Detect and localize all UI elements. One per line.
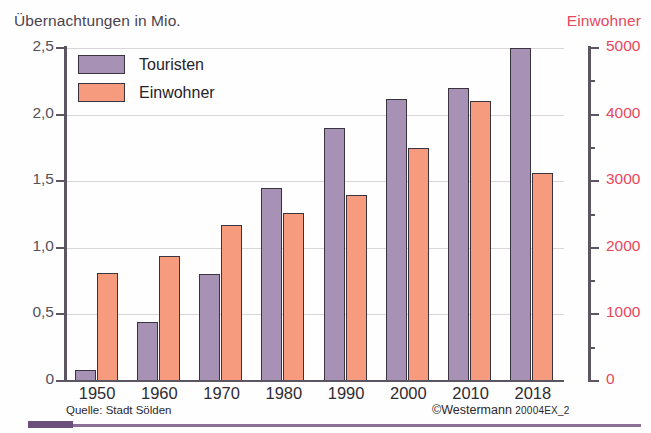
bar-einwohner-1950 [97,273,118,381]
right-tick-label: 2000 [606,237,640,255]
left-axis-spine [64,46,67,382]
legend-swatch-einwohner [78,83,125,102]
right-tick-major [588,247,599,249]
bar-touristen-2010 [448,88,469,381]
left-tick-label: 0 [45,370,54,388]
x-axis-baseline [66,380,564,382]
right-tick-label: 5000 [606,37,640,55]
x-axis-label-1950: 1950 [67,384,127,403]
x-axis-label-2018: 2018 [503,384,563,403]
bar-touristen-1960 [137,322,158,381]
bar-einwohner-2010 [470,101,491,381]
copyright-code: 20004EX_2 [515,405,569,416]
bar-touristen-2018 [510,48,531,381]
bar-touristen-2000 [386,99,407,381]
right-tick-major [588,114,599,116]
legend-label-touristen: Touristen [139,56,204,74]
left-tick-major [56,114,66,116]
right-tick-minor [588,280,595,282]
right-tick-label: 3000 [606,170,640,188]
legend-item-einwohner: Einwohner [78,80,215,105]
chart-legend: Touristen Einwohner [78,52,215,108]
left-tick-major [56,247,66,249]
left-tick-label: 1,5 [32,170,54,188]
left-tick-major [56,180,66,182]
copyright-publisher: Westermann [441,403,512,417]
left-tick-label: 0,5 [32,303,54,321]
left-tick-label: 2,0 [32,104,54,122]
bar-touristen-1970 [199,274,220,381]
right-tick-major [588,47,599,49]
right-tick-minor [588,214,595,216]
bar-einwohner-1990 [346,195,367,381]
right-tick-label: 1000 [606,303,640,321]
bar-einwohner-1970 [221,225,242,381]
legend-swatch-touristen [78,55,125,74]
right-tick-minor [588,347,595,349]
footer-tab [28,421,73,428]
right-tick-minor [588,147,595,149]
right-axis-title: Einwohner [567,12,641,30]
legend-item-touristen: Touristen [78,52,215,77]
right-tick-major [588,313,599,315]
right-tick-label: 4000 [606,104,640,122]
left-axis-title: Übernachtungen in Mio. [14,12,181,30]
left-tick-label: 1,0 [32,237,54,255]
left-tick-label: 2,5 [32,37,54,55]
x-axis-label-2010: 2010 [441,384,501,403]
right-tick-major [588,380,599,382]
x-axis-label-1960: 1960 [129,384,189,403]
gridline [66,48,564,49]
x-axis-label-1990: 1990 [316,384,376,403]
footer-rule [28,424,641,427]
x-axis-label-1970: 1970 [192,384,252,403]
right-tick-major [588,180,599,182]
bar-touristen-1980 [261,188,282,381]
left-tick-major [56,313,66,315]
chart-figure: Übernachtungen in Mio. Einwohner 00,51,0… [0,0,651,433]
bar-touristen-1990 [324,128,345,381]
x-axis-label-1980: 1980 [254,384,314,403]
right-tick-minor [588,80,595,82]
bar-einwohner-2000 [408,148,429,381]
copyright-note: ©Westermann 20004EX_2 [432,403,569,417]
copyright-symbol: © [432,403,441,417]
bar-einwohner-1980 [283,213,304,381]
right-tick-label: 0 [606,370,615,388]
bar-einwohner-2018 [532,173,553,381]
left-tick-major [56,380,66,382]
left-tick-major [56,47,66,49]
source-note: Quelle: Stadt Sölden [66,404,172,416]
legend-label-einwohner: Einwohner [139,84,215,102]
bar-einwohner-1960 [159,256,180,381]
x-axis-label-2000: 2000 [378,384,438,403]
